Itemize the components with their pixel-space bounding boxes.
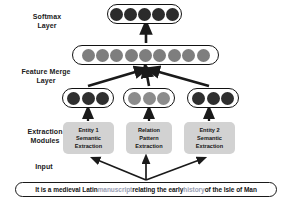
label-merge-line2: Layer [3, 77, 89, 86]
module-rel-line2: Pattern [139, 134, 158, 142]
neuron-dot [182, 49, 195, 62]
input-token-highlighted: manuscript [98, 186, 133, 193]
input-token: of the Isle of Man [205, 186, 257, 193]
edge-input-to-modules [95, 159, 202, 180]
entity2-output-capsule [187, 88, 239, 108]
neuron-dot [82, 92, 95, 105]
module-rel-line1: Relation [138, 126, 160, 134]
module-e1-line3: Extraction [75, 142, 102, 150]
module-e2-line2: Semantic [197, 134, 222, 142]
label-feature-merge-layer: Feature Merge Layer [3, 68, 89, 86]
label-softmax-layer: Softmax Layer [8, 13, 86, 31]
neuron-dot [168, 49, 181, 62]
input-token: relating the early [132, 186, 183, 193]
module-e1-line1: Entity 1 [78, 126, 98, 134]
neuron-dot [197, 49, 210, 62]
input-token: It is a medieval Latin [35, 186, 97, 193]
label-input: Input [14, 163, 74, 172]
neuron-dot [124, 8, 137, 21]
edge-modules-to-outputs [88, 112, 209, 121]
neuron-dot [221, 92, 234, 105]
softmax-layer-capsule [107, 4, 182, 24]
module-entity2-semantic-extraction[interactable]: Entity 2 Semantic Extraction [184, 122, 235, 154]
module-entity1-semantic-extraction[interactable]: Entity 1 Semantic Extraction [63, 122, 114, 154]
neuron-dot [157, 92, 170, 105]
neuron-dot [152, 8, 165, 21]
label-softmax-line2: Layer [8, 22, 86, 31]
relation-output-capsule [123, 88, 175, 108]
neuron-dot [128, 92, 141, 105]
module-e2-line1: Entity 2 [199, 126, 219, 134]
module-rel-line3: Extraction [135, 142, 162, 150]
neuron-dot [110, 8, 123, 21]
neuron-dot [166, 8, 179, 21]
module-e2-line3: Extraction [196, 142, 223, 150]
label-merge-line1: Feature Merge [3, 68, 89, 77]
label-softmax-line1: Softmax [8, 13, 86, 22]
architecture-diagram: Softmax Layer Feature Merge Layer Extrac… [0, 0, 292, 207]
neuron-dot [96, 92, 109, 105]
neuron-dot [67, 92, 80, 105]
neuron-dot [125, 49, 138, 62]
neuron-dot [192, 92, 205, 105]
module-e1-line2: Semantic [76, 134, 101, 142]
edge-outputs-to-merge [88, 70, 209, 86]
input-sentence: It is a medieval Latin manuscript relati… [15, 182, 277, 197]
neuron-dot [138, 8, 151, 21]
neuron-dot [143, 92, 156, 105]
module-relation-pattern-extraction[interactable]: Relation Pattern Extraction [126, 122, 172, 154]
neuron-dot [110, 49, 123, 62]
input-token-highlighted: history [183, 186, 204, 193]
entity1-output-capsule [62, 88, 114, 108]
neuron-dot [82, 49, 95, 62]
neuron-dot [207, 92, 220, 105]
neuron-dot [139, 49, 152, 62]
feature-merge-layer-capsule [72, 45, 219, 65]
neuron-dot [153, 49, 166, 62]
neuron-dot [96, 49, 109, 62]
